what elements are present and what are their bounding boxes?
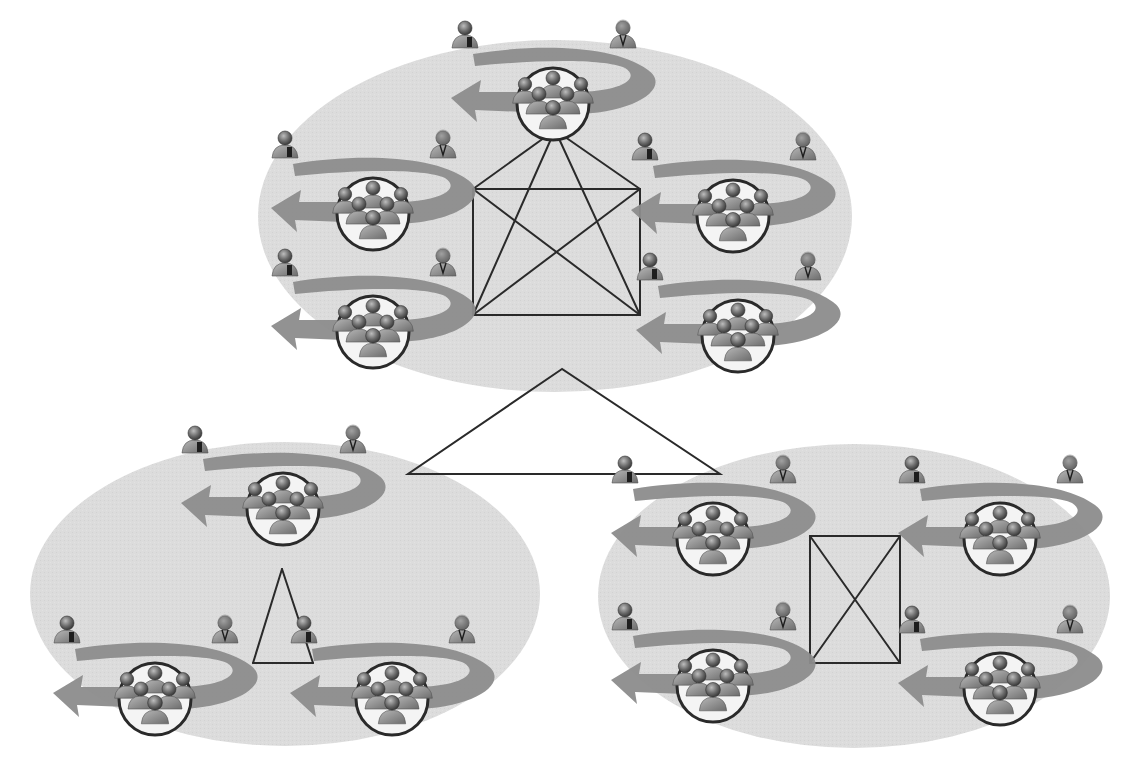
- network-diagram: [0, 0, 1130, 762]
- person-with-tie-icon: [610, 20, 636, 48]
- diagram-canvas: [0, 0, 1130, 762]
- person-with-laptop-icon: [452, 21, 478, 48]
- person-with-laptop-icon: [182, 426, 208, 453]
- person-with-tie-icon: [1057, 455, 1083, 483]
- person-with-tie-icon: [340, 425, 366, 453]
- person-with-laptop-icon: [612, 456, 638, 483]
